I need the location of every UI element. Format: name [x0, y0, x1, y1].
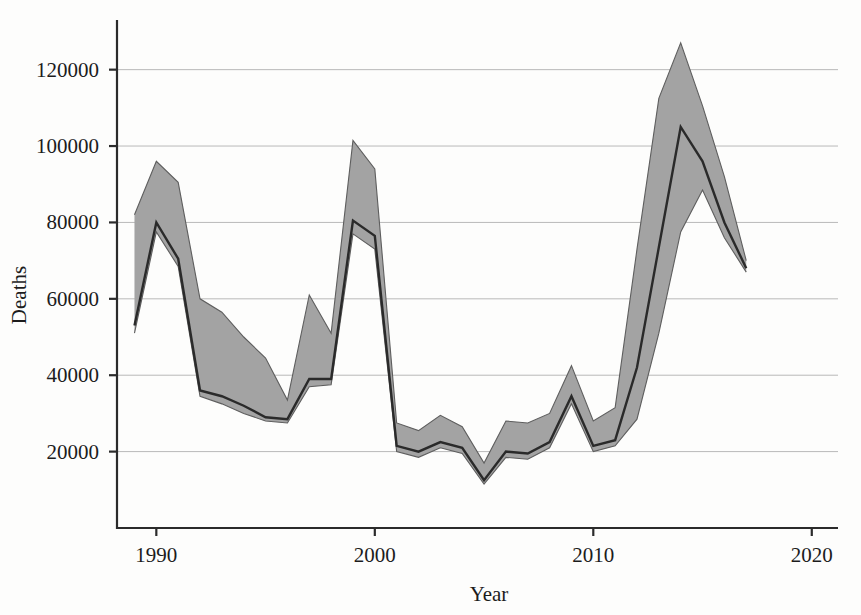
y-tick-label: 120000	[36, 58, 99, 82]
y-tick-label: 40000	[47, 363, 100, 387]
x-tick-label: 2020	[791, 543, 833, 567]
uncertainty-band-fill	[134, 43, 746, 484]
deaths-by-year-line-chart: 20000400006000080000100000120000 1990200…	[0, 0, 861, 615]
x-axis-title: Year	[470, 582, 509, 606]
y-tick-label: 20000	[47, 440, 100, 464]
y-tick-label: 80000	[47, 210, 100, 234]
x-tick-label: 2010	[572, 543, 614, 567]
x-tick-label: 2000	[354, 543, 396, 567]
x-axis-ticks: 1990200020102020	[135, 528, 832, 567]
chart-container: 20000400006000080000100000120000 1990200…	[0, 0, 861, 615]
y-axis-ticks: 20000400006000080000100000120000	[36, 58, 117, 464]
uncertainty-band	[134, 43, 746, 484]
y-tick-label: 100000	[36, 134, 99, 158]
y-axis-title: Deaths	[7, 266, 31, 324]
y-tick-label: 60000	[47, 287, 100, 311]
x-tick-label: 1990	[135, 543, 177, 567]
